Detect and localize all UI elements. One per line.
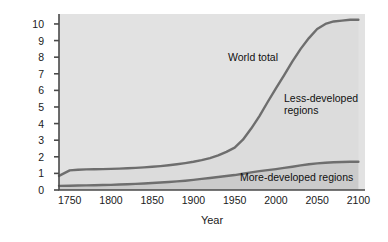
x-tick-label: 1800 bbox=[91, 194, 131, 206]
x-axis-title: Year bbox=[182, 214, 242, 226]
y-tick-label: 6 bbox=[24, 83, 44, 97]
y-tick-label: 7 bbox=[24, 67, 44, 81]
x-tick-label: 1900 bbox=[173, 194, 213, 206]
y-tick-label: 8 bbox=[24, 50, 44, 64]
y-tick-label: 1 bbox=[24, 166, 44, 180]
annotation-world-total: World total bbox=[228, 52, 278, 64]
annotation-less-developed-regions: Less-developed regions bbox=[284, 93, 360, 116]
y-tick-label: 10 bbox=[24, 17, 44, 31]
y-tick-label: 5 bbox=[24, 100, 44, 114]
x-tick-label: 1850 bbox=[132, 194, 172, 206]
x-tick-label: 1750 bbox=[50, 194, 90, 206]
x-tick-label: 2100 bbox=[338, 194, 378, 206]
y-tick-label: 9 bbox=[24, 34, 44, 48]
population-chart: Billions of people Year 1750180018501900… bbox=[0, 0, 388, 242]
x-tick-label: 2000 bbox=[256, 194, 296, 206]
x-tick-label: 1950 bbox=[215, 194, 255, 206]
y-tick-label: 3 bbox=[24, 133, 44, 147]
y-tick-label: 0 bbox=[24, 183, 44, 197]
x-tick-label: 2050 bbox=[297, 194, 337, 206]
annotation-more-developed-regions: More-developed regions bbox=[240, 172, 353, 184]
y-tick-label: 4 bbox=[24, 117, 44, 131]
y-tick-label: 2 bbox=[24, 150, 44, 164]
